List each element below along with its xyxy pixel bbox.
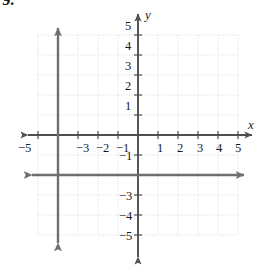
y-tick-label: 3 — [125, 60, 131, 73]
x-tick-label: −2 — [96, 142, 109, 155]
y-tick-label: 5 — [125, 20, 131, 33]
x-tick-label: 5 — [235, 142, 241, 155]
cartesian-plane — [0, 0, 263, 267]
y-tick-label: 4 — [125, 40, 131, 53]
x-tick-label: 2 — [177, 142, 183, 155]
y-axis-label: y — [145, 8, 151, 21]
y-tick-label: −4 — [119, 210, 132, 223]
x-tick-label: 4 — [216, 142, 222, 155]
y-tick-label: 2 — [125, 80, 131, 93]
y-tick-label: −5 — [119, 230, 132, 243]
y-tick-label: −1 — [119, 150, 132, 163]
y-tick-label: −3 — [119, 190, 132, 203]
x-axis-label: x — [248, 118, 254, 131]
coordinate-graph-figure: 9. — [0, 0, 263, 267]
x-tick-label: −5 — [18, 142, 31, 155]
x-tick-label: 1 — [157, 142, 163, 155]
x-tick-label: −3 — [76, 142, 89, 155]
x-tick-label: 3 — [197, 142, 203, 155]
y-tick-label: 1 — [125, 100, 131, 113]
